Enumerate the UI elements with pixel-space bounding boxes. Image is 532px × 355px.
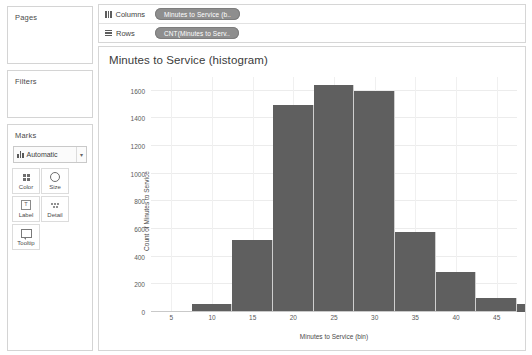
left-sidebar: Pages Filters Marks Automatic ▾ Color (0, 0, 98, 355)
y-tick-label: 800 (134, 198, 145, 205)
marks-detail-label: Detail (47, 212, 62, 218)
marks-color-label: Color (19, 184, 33, 190)
x-tick-label: 5 (170, 314, 174, 321)
detail-icon (51, 201, 59, 210)
histogram-bar[interactable] (517, 304, 526, 312)
rows-icon (105, 30, 112, 37)
columns-shelf-label-wrap: Columns (105, 10, 149, 19)
marks-size-label: Size (49, 184, 61, 190)
size-icon (50, 173, 60, 182)
page-title: Minutes to Service (histogram) (99, 47, 525, 66)
marks-label-label: Label (19, 212, 34, 218)
marks-tooltip-button[interactable]: Tooltip (12, 224, 40, 250)
tooltip-icon (21, 229, 32, 238)
y-tick-label: 200 (134, 281, 145, 288)
histogram-bar[interactable] (476, 298, 517, 312)
mark-type-dropdown[interactable]: Automatic ▾ (13, 146, 87, 163)
mark-type-value: Automatic (27, 151, 58, 158)
visualization-canvas[interactable]: Minutes to Service (histogram) Count of … (98, 46, 526, 351)
y-tick-label: 1400 (131, 115, 145, 122)
plot-wrapper: Count of Minutes to Service 020040060080… (99, 71, 525, 350)
filters-card[interactable]: Filters (7, 70, 93, 118)
pages-card[interactable]: Pages (7, 6, 93, 64)
chevron-down-icon[interactable]: ▾ (76, 147, 83, 162)
columns-shelf[interactable]: Columns Minutes to Service (b.. (99, 5, 525, 24)
y-tick-label: 400 (134, 253, 145, 260)
marks-card-title: Marks (8, 125, 92, 144)
histogram-bar[interactable] (354, 91, 395, 312)
marks-card: Marks Automatic ▾ Color Size (7, 124, 93, 351)
marks-detail-button[interactable]: Detail (41, 196, 69, 222)
bar-chart-icon (17, 151, 24, 158)
y-tick-label: 0 (141, 309, 145, 316)
y-tick-label: 1600 (131, 87, 145, 94)
main-area: Columns Minutes to Service (b.. Rows CNT… (98, 0, 532, 355)
rows-shelf-label: Rows (116, 29, 135, 38)
histogram-bar[interactable] (273, 105, 314, 312)
label-icon: T (21, 201, 31, 210)
x-tick-label: 10 (208, 314, 215, 321)
x-tick-label: 15 (249, 314, 256, 321)
x-tick-label: 35 (412, 314, 419, 321)
x-tick-label: 40 (452, 314, 459, 321)
marks-color-button[interactable]: Color (12, 168, 40, 194)
histogram-bar[interactable] (314, 85, 355, 312)
y-tick-label: 600 (134, 226, 145, 233)
marks-size-button[interactable]: Size (41, 168, 69, 194)
y-tick-label: 1000 (131, 170, 145, 177)
color-icon (23, 173, 30, 182)
x-axis-ticks: 51015202530354045 (151, 314, 517, 326)
columns-pill[interactable]: Minutes to Service (b.. (155, 8, 240, 20)
filters-card-title: Filters (8, 71, 92, 90)
histogram-bar[interactable] (395, 232, 436, 312)
tableau-worksheet: Pages Filters Marks Automatic ▾ Color (0, 0, 532, 355)
x-tick-label: 25 (330, 314, 337, 321)
pages-card-title: Pages (8, 7, 92, 26)
label-icon-glyph: T (21, 200, 31, 210)
x-axis-title: Minutes to Service (bin) (151, 333, 517, 340)
columns-shelf-label: Columns (116, 10, 146, 19)
histogram-bar[interactable] (232, 240, 273, 312)
x-axis-line (151, 311, 517, 312)
rows-shelf[interactable]: Rows CNT(Minutes to Serv.. (99, 24, 525, 42)
marks-label-button[interactable]: T Label (12, 196, 40, 222)
marks-tooltip-label: Tooltip (17, 240, 34, 246)
marks-buttons: Color Size T Label (8, 168, 92, 252)
x-tick-label: 30 (371, 314, 378, 321)
shelves: Columns Minutes to Service (b.. Rows CNT… (98, 4, 526, 43)
bars-layer (151, 77, 517, 312)
plot-area (151, 77, 517, 312)
x-tick-label: 20 (290, 314, 297, 321)
rows-shelf-label-wrap: Rows (105, 29, 149, 38)
y-tick-label: 1200 (131, 143, 145, 150)
x-tick-label: 45 (493, 314, 500, 321)
rows-pill[interactable]: CNT(Minutes to Serv.. (155, 27, 239, 39)
y-axis-ticks: 02004006008001000120014001600 (117, 71, 147, 350)
histogram-bar[interactable] (436, 272, 477, 312)
columns-icon (105, 11, 112, 18)
